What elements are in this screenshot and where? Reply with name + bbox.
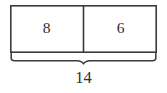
part-one-value: 8 <box>43 19 51 36</box>
diagram-canvas: 8 6 14 <box>0 0 167 93</box>
total-brace <box>11 53 156 64</box>
part-two-value: 6 <box>117 19 125 36</box>
bar-model-diagram: 8 6 14 <box>0 0 167 93</box>
total-value-label: 14 <box>75 68 92 87</box>
